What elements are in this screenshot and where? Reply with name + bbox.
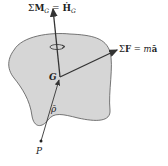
acceleration-symbol: ā	[152, 44, 158, 54]
equals-sign: =	[134, 44, 141, 54]
moment-subscript: G	[44, 7, 49, 14]
force-symbol: F	[125, 44, 131, 54]
center-of-mass-label: G	[49, 73, 57, 82]
position-vector-label: ρ̄	[51, 105, 56, 114]
mass-symbol: m	[144, 44, 152, 54]
hdot-subscript: G	[71, 7, 76, 14]
moment-symbol: M	[34, 3, 44, 13]
rigid-body-shape	[9, 34, 112, 126]
equals-sign: =	[52, 3, 60, 13]
point-p-dot	[40, 140, 43, 143]
rigid-body-diagram	[0, 0, 168, 166]
moment-equation-label: ΣMG = ḢG	[28, 4, 76, 14]
force-equation-label: ΣF = mā	[119, 45, 157, 54]
hdot-symbol: Ḣ	[62, 3, 71, 13]
point-p-label: P	[36, 147, 42, 156]
